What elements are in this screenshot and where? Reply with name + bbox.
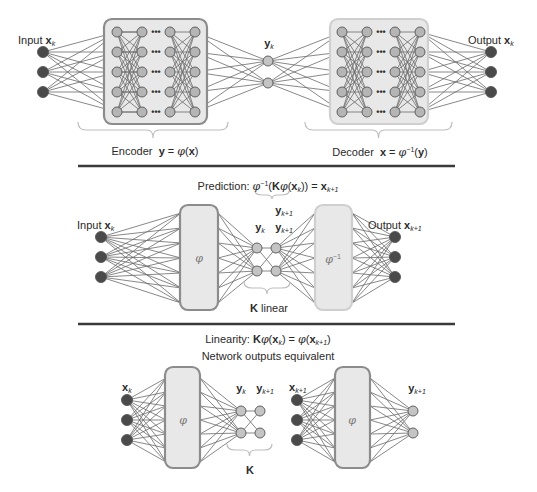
- encoder-node: [112, 107, 122, 117]
- encoder-node: [112, 27, 122, 37]
- input-node: [96, 232, 107, 243]
- ellipsis-dots: •••: [376, 67, 385, 77]
- k-linear-brace: [244, 282, 290, 294]
- middle-yk-label: yk: [255, 222, 265, 234]
- decoder-node: [337, 47, 347, 57]
- ellipsis-dots: •••: [376, 87, 385, 97]
- xk1-node: [292, 395, 303, 406]
- encoder-node: [137, 27, 147, 37]
- bottom-k-label: K: [246, 465, 254, 476]
- latent-node: [263, 78, 273, 88]
- decoder-node: [337, 27, 347, 37]
- xk1-node: [292, 435, 303, 446]
- encoder-node: [165, 87, 175, 97]
- yk1-sub: k+1: [281, 227, 292, 234]
- encoder-node: [137, 67, 147, 77]
- output-text: Output: [468, 34, 501, 46]
- decoder-node: [362, 87, 372, 97]
- xk-node: [122, 415, 133, 426]
- encoder-eq-equals: =: [165, 145, 178, 157]
- k-suffix: linear: [258, 302, 288, 314]
- bottom-yk1-label: yk+1: [256, 383, 274, 395]
- prediction-sub-k: k: [297, 186, 301, 193]
- latent-node: [263, 56, 273, 66]
- input-node: [38, 47, 49, 58]
- input-sub: k: [111, 225, 115, 232]
- yk1-node: [271, 243, 281, 253]
- ellipsis-dots: •••: [376, 107, 385, 117]
- decoder-node: [390, 67, 400, 77]
- encoder-node: [190, 67, 200, 77]
- prediction-inner-fn: φ: [280, 180, 288, 193]
- decoder-node: [390, 87, 400, 97]
- k-brace: [227, 444, 272, 456]
- encoder-eq-arg: x: [189, 145, 195, 157]
- input-node: [96, 252, 107, 263]
- output-sub: k+1: [410, 225, 421, 232]
- bottom-left-input-label: xk: [122, 382, 132, 394]
- linearity-prefix: Linearity:: [205, 333, 253, 345]
- subtitle-text: Network outputs equivalent: [202, 350, 335, 362]
- linearity-rhs-fn: φ: [298, 333, 306, 346]
- middle-yk1-top-label: yk+1: [275, 205, 293, 217]
- yk1-node: [255, 428, 265, 438]
- encoder-node: [190, 27, 200, 37]
- input-node: [96, 272, 107, 283]
- output-text: Output: [368, 219, 401, 231]
- top-input-label: Input xk: [18, 35, 55, 47]
- linearity-subtitle: Network outputs equivalent: [202, 351, 335, 362]
- k-linear-label: K linear: [250, 303, 288, 314]
- encoder-node: [137, 87, 147, 97]
- input-sub: k: [128, 387, 132, 394]
- decoder-node: [362, 47, 372, 57]
- encoder-node: [137, 107, 147, 117]
- prediction-prefix: Prediction:: [198, 180, 253, 192]
- ellipsis-dots: •••: [376, 27, 385, 37]
- yk-node: [252, 266, 262, 276]
- output-node: [390, 232, 401, 243]
- linearity-K: K: [253, 333, 261, 345]
- ellipsis-dots: •••: [376, 47, 385, 57]
- encoder-node: [190, 87, 200, 97]
- prediction-fn: φ: [253, 180, 261, 193]
- yk1-node: [271, 266, 281, 276]
- decoder-node: [362, 107, 372, 117]
- decoder-node: [415, 47, 425, 57]
- decoder-label: Decoder x = φ−1(y): [332, 146, 428, 158]
- input-node: [38, 67, 49, 78]
- latent-sub: k: [270, 43, 274, 50]
- output-node: [486, 87, 497, 98]
- encoder-eq-fn: φ: [177, 145, 185, 158]
- encoder-label: Encoder y = φ(x): [112, 146, 199, 157]
- output-sub: k+1: [414, 388, 425, 395]
- linearity-sub-k: k: [278, 339, 282, 346]
- output-node: [486, 67, 497, 78]
- decoder-eq-equals: =: [386, 146, 399, 158]
- prediction-title: Prediction: φ−1(Kφ(xk)) = xk+1: [198, 180, 339, 193]
- bottom-right-phi-label: φ: [348, 415, 356, 426]
- output-node: [486, 47, 497, 58]
- encoder-node: [112, 47, 122, 57]
- linearity-equals: =: [286, 333, 299, 345]
- yk-node: [236, 406, 246, 416]
- input-node: [38, 87, 49, 98]
- encoder-node: [165, 47, 175, 57]
- output-sub: k: [510, 40, 514, 47]
- yk-node: [252, 243, 262, 253]
- decoder-node: [362, 67, 372, 77]
- encoder-node: [190, 107, 200, 117]
- input-text: Input: [77, 219, 101, 231]
- prediction-equals: =: [308, 180, 321, 192]
- decoder-eq-arg: y: [418, 146, 424, 158]
- koopman-autoencoder-diagram: ••••••••••••••••••••••••••••••: [0, 0, 537, 492]
- yk-sub: k: [261, 227, 265, 234]
- yk1-top-sub: k+1: [281, 210, 292, 217]
- encoder-node: [112, 67, 122, 77]
- middle-input-label: Input xk: [77, 220, 114, 232]
- yk1-node: [255, 406, 265, 416]
- phi-inv-symbol: φ: [325, 253, 333, 266]
- yk-node: [236, 428, 246, 438]
- decoder-node: [415, 107, 425, 117]
- bottom-right-input-label: xk+1: [289, 382, 307, 394]
- decoder-text: Decoder: [332, 146, 374, 158]
